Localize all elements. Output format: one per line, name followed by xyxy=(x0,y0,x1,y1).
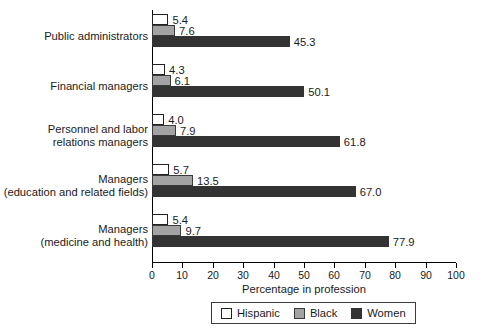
x-axis-tick-20 xyxy=(213,263,214,268)
legend: Hispanic Black Women xyxy=(211,302,416,324)
x-axis-tick-50 xyxy=(304,263,305,268)
x-axis-tick-10 xyxy=(182,263,183,268)
bar-hispanic-2[interactable] xyxy=(152,114,164,125)
legend-entry-women[interactable]: Women xyxy=(351,307,405,319)
x-axis-tick-label-90: 90 xyxy=(420,269,432,281)
legend-entry-hispanic[interactable]: Hispanic xyxy=(221,307,280,319)
legend-label-hispanic: Hispanic xyxy=(237,307,280,319)
bar-hispanic-4[interactable] xyxy=(152,214,168,225)
x-axis-tick-40 xyxy=(274,263,275,268)
bar-women-2[interactable] xyxy=(152,136,340,147)
x-axis-tick-label-0: 0 xyxy=(149,269,155,281)
x-axis-tick-label-20: 20 xyxy=(207,269,219,281)
x-axis-tick-90 xyxy=(426,263,427,268)
bar-value-women-0: 45.3 xyxy=(294,37,316,48)
bar-women-1[interactable] xyxy=(152,86,304,97)
x-axis-tick-0 xyxy=(152,263,153,268)
bar-value-women-3: 67.0 xyxy=(360,187,382,198)
x-axis-tick-label-70: 70 xyxy=(359,269,371,281)
x-axis-tick-label-50: 50 xyxy=(298,269,310,281)
bar-chart: Public administrators Financial managers… xyxy=(0,0,486,336)
legend-swatch-hispanic-icon xyxy=(221,308,232,319)
x-axis-tick-30 xyxy=(243,263,244,268)
bar-black-3[interactable] xyxy=(152,175,193,186)
x-axis-tick-label-10: 10 xyxy=(176,269,188,281)
bar-hispanic-0[interactable] xyxy=(152,14,168,25)
bar-black-2[interactable] xyxy=(152,125,176,136)
bar-value-women-1: 50.1 xyxy=(308,87,330,98)
x-axis-tick-label-100: 100 xyxy=(447,269,465,281)
x-axis-tick-label-40: 40 xyxy=(268,269,280,281)
bar-value-women-2: 61.8 xyxy=(344,137,366,148)
category-label-3: Managers (education and related fields) xyxy=(4,173,148,199)
category-label-0: Public administrators xyxy=(44,30,148,43)
bar-women-0[interactable] xyxy=(152,36,290,47)
category-label-1: Financial managers xyxy=(50,80,148,93)
bar-black-1[interactable] xyxy=(152,75,171,86)
x-axis-tick-label-30: 30 xyxy=(237,269,249,281)
legend-label-black: Black xyxy=(310,307,337,319)
x-axis-tick-60 xyxy=(334,263,335,268)
bar-hispanic-1[interactable] xyxy=(152,64,165,75)
legend-label-women: Women xyxy=(367,307,405,319)
legend-swatch-black-icon xyxy=(294,308,305,319)
legend-swatch-women-icon xyxy=(351,308,362,319)
bar-women-3[interactable] xyxy=(152,186,356,197)
bar-black-4[interactable] xyxy=(152,225,181,236)
bar-hispanic-3[interactable] xyxy=(152,164,169,175)
bar-women-4[interactable] xyxy=(152,236,389,247)
x-axis-tick-70 xyxy=(365,263,366,268)
bar-black-0[interactable] xyxy=(152,25,175,36)
x-axis-tick-80 xyxy=(395,263,396,268)
bar-value-women-4: 77.9 xyxy=(393,237,415,248)
x-axis-tick-100 xyxy=(456,263,457,268)
category-label-2: Personnel and labor relations managers xyxy=(48,123,148,149)
x-axis-tick-label-80: 80 xyxy=(389,269,401,281)
x-axis-tick-label-60: 60 xyxy=(328,269,340,281)
legend-entry-black[interactable]: Black xyxy=(294,307,337,319)
x-axis-title: Percentage in profession xyxy=(152,283,456,295)
category-label-4: Managers (medicine and health) xyxy=(40,223,148,249)
